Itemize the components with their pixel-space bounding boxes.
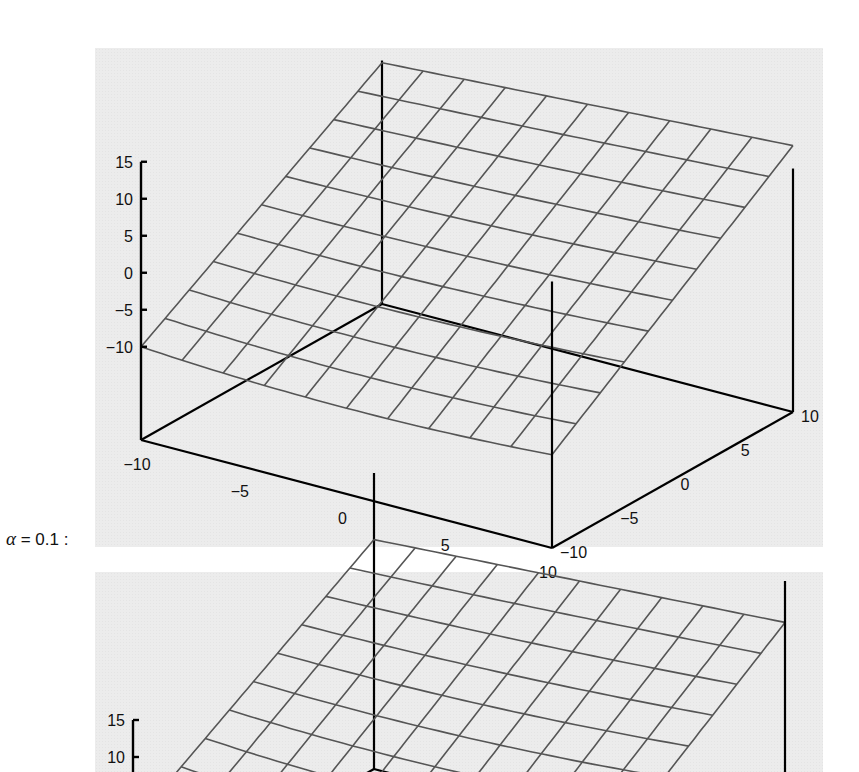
mesh-line — [544, 622, 785, 772]
surface-plot-2: 51015 — [107, 473, 785, 772]
z-tick-label: −10 — [106, 339, 133, 356]
mesh-line — [256, 565, 497, 772]
y-tick-label: −10 — [560, 544, 587, 561]
mesh-line — [552, 146, 793, 455]
surface-plots: −10−5051015−10−50510−10−50510 51015 — [0, 0, 859, 772]
mesh-line — [205, 738, 616, 772]
mesh-line — [213, 262, 624, 362]
y-tick-label: 10 — [801, 408, 819, 425]
mesh-line — [229, 710, 640, 772]
y-tick-label: 0 — [681, 476, 690, 493]
mesh-line — [503, 614, 744, 772]
x-tick-label: 10 — [539, 564, 557, 581]
x-tick-label: −10 — [123, 456, 150, 473]
z-tick-label: 10 — [115, 191, 133, 208]
z-tick-label: 15 — [107, 712, 125, 729]
mesh-line — [165, 318, 576, 423]
y-tick-label: −5 — [620, 510, 638, 527]
z-tick-label: 5 — [124, 228, 133, 245]
mesh-line — [133, 540, 374, 772]
mesh-line — [215, 556, 456, 772]
z-tick-label: −5 — [115, 302, 133, 319]
mesh-line — [254, 682, 665, 772]
x-axis — [141, 440, 552, 548]
mesh-line — [141, 347, 552, 455]
y-axis — [552, 412, 793, 548]
z-tick-label: 15 — [115, 154, 133, 171]
x-tick-label: −5 — [231, 483, 249, 500]
z-tick-label: 0 — [124, 265, 133, 282]
mesh-line — [174, 548, 415, 772]
x-tick-label: 5 — [441, 537, 450, 554]
x-tick-label: 0 — [338, 510, 347, 527]
z-tick-label: 10 — [107, 749, 125, 766]
mesh-line — [421, 598, 662, 772]
surface-plot-1: −10−5051015−10−50510−10−50510 — [106, 61, 819, 581]
y-tick-label: 5 — [741, 442, 750, 459]
